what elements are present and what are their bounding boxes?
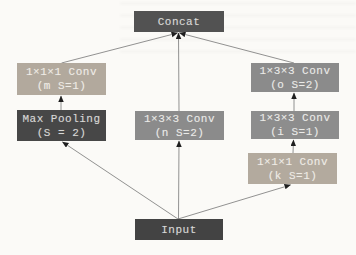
node-conv-1x3x3-o-param: (o S=2) (270, 78, 320, 92)
node-conv-1x1x1-m: 1×1×1 Conv (m S=1) (17, 63, 106, 95)
node-input-label: Input (161, 223, 197, 237)
node-max-pooling-label: Max Pooling (22, 112, 100, 126)
node-concat-label: Concat (158, 15, 201, 29)
node-input: Input (135, 219, 223, 240)
node-conv-1x3x3-i-param: (i S=1) (270, 125, 320, 139)
edge-input-to-maxpool (63, 142, 179, 219)
node-conv-1x3x3-o-label: 1×3×3 Conv (259, 64, 330, 78)
node-conv-1x3x3-i-label: 1×3×3 Conv (259, 111, 330, 125)
architecture-diagram: Concat 1×1×1 Conv (m S=1) Max Pooling (S… (0, 0, 356, 255)
edge-input-to-conv-k (178, 185, 291, 219)
edge-input-to-conv-n (179, 141, 180, 219)
edge-conv-m-to-concat (62, 33, 178, 63)
edge-conv-n-to-concat (179, 33, 180, 111)
node-conv-1x1x1-m-param: (m S=1) (37, 79, 87, 93)
node-conv-1x3x3-o: 1×3×3 Conv (o S=2) (251, 63, 339, 92)
node-max-pooling-param: (S = 2) (37, 126, 87, 140)
edge-conv-k-to-conv-i (293, 140, 294, 153)
node-conv-1x1x1-k: 1×1×1 Conv (k S=1) (248, 153, 337, 184)
node-conv-1x3x3-i: 1×3×3 Conv (i S=1) (251, 111, 339, 139)
node-concat: Concat (134, 11, 224, 32)
node-conv-1x1x1-m-label: 1×1×1 Conv (26, 65, 97, 79)
edge-conv-o-to-concat (180, 33, 295, 63)
node-conv-1x1x1-k-param: (k S=1) (268, 169, 318, 183)
node-conv-1x1x1-k-label: 1×1×1 Conv (257, 155, 328, 169)
node-conv-1x3x3-n: 1×3×3 Conv (n S=2) (135, 111, 224, 140)
node-max-pooling: Max Pooling (S = 2) (17, 110, 106, 141)
node-conv-1x3x3-n-label: 1×3×3 Conv (144, 112, 215, 126)
node-conv-1x3x3-n-param: (n S=2) (155, 126, 205, 140)
